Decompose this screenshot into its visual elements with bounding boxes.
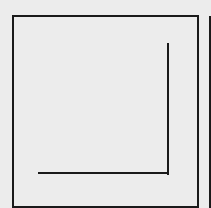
right-edge-bar (209, 16, 211, 208)
l-shape-horizontal-stroke (38, 172, 169, 174)
outer-square-frame (12, 15, 199, 208)
l-shape-vertical-stroke (167, 43, 169, 175)
diagram-canvas (0, 0, 211, 208)
